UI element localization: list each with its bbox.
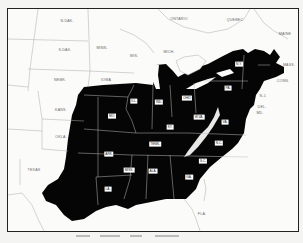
- state-tag-mo: MO.: [108, 114, 116, 119]
- state-label-nebr: NEBR.: [54, 78, 66, 82]
- state-label-maine: MAINE: [279, 32, 291, 36]
- state-label-minn: MINN.: [96, 46, 107, 50]
- state-tag-la: LA.: [105, 187, 112, 192]
- state-label-iowa: IOWA: [101, 78, 111, 82]
- state-tag-ill: ILL.: [130, 99, 137, 104]
- state-label-okla: OKLA.: [55, 135, 67, 139]
- state-tag-tenn: TENN.: [149, 142, 161, 147]
- state-tag-wva: W.VA.: [194, 115, 205, 120]
- state-label-mass: MASS.: [283, 63, 295, 67]
- state-tag-ark: ARK.: [104, 152, 113, 157]
- map-frame: [7, 8, 299, 232]
- state-tag-ny: N.Y.: [235, 62, 243, 67]
- state-label-texas: TEXAS: [28, 168, 41, 172]
- caption-rule: [70, 235, 230, 239]
- state-label-kans: KANS.: [55, 108, 67, 112]
- state-label-fla: FLA.: [198, 212, 206, 216]
- state-label-mich: MICH.: [163, 50, 174, 54]
- state-label-md: MD.: [256, 111, 263, 115]
- state-tag-miss: MISS.: [124, 168, 135, 173]
- state-tag-ky: KY.: [167, 125, 174, 130]
- state-tag-ind: IND.: [155, 100, 163, 105]
- state-tag-pa: PA.: [225, 86, 232, 91]
- state-label-wis: WIS.: [130, 54, 139, 58]
- state-label-ndak: N.DAK.: [60, 19, 73, 23]
- shaded-region: [42, 49, 284, 221]
- state-label-quebec: QUEBEC: [227, 18, 243, 22]
- state-tag-ga: GA.: [185, 175, 193, 180]
- state-tag-sc: S.C.: [199, 159, 207, 164]
- state-tag-ohio: OHIO: [182, 96, 192, 101]
- state-label-sdak: S.DAK.: [59, 48, 72, 52]
- state-label-nj: N.J.: [259, 94, 266, 98]
- state-label-del: DEL.: [258, 105, 267, 109]
- state-label-ontario: ONTARIO: [170, 17, 188, 21]
- state-tag-ala: ALA.: [149, 169, 158, 174]
- map-svg: [8, 9, 298, 231]
- state-label-conn: CONN.: [277, 79, 290, 83]
- state-tag-va: VA.: [222, 120, 229, 125]
- state-tag-nc: N.C.: [215, 141, 223, 146]
